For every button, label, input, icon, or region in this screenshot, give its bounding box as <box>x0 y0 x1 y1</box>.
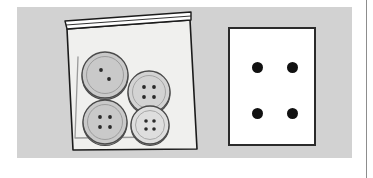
button-hole <box>99 68 103 72</box>
button-hole <box>107 77 111 81</box>
button-hole <box>144 127 148 131</box>
button-hole <box>152 127 156 131</box>
button-bottom-right <box>131 106 169 146</box>
button-hole <box>98 115 102 119</box>
button-hole <box>142 95 146 99</box>
illustration-scene <box>0 0 373 178</box>
card-dot-top-right <box>287 62 298 73</box>
button-hole <box>98 125 102 129</box>
page-edge-rule <box>366 0 367 178</box>
card-dot-top-left <box>252 62 263 73</box>
white-index-card <box>228 27 316 146</box>
button-bottom-left <box>83 100 127 146</box>
button-hole <box>152 119 156 123</box>
card-dot-bottom-left <box>252 108 263 119</box>
button-hole <box>108 115 112 119</box>
illustration-panel <box>17 7 352 158</box>
card-dot-bottom-right <box>287 108 298 119</box>
button-hole <box>108 125 112 129</box>
button-hole <box>152 95 156 99</box>
button-hole <box>152 85 156 89</box>
button-hole <box>144 119 148 123</box>
button-hole <box>142 85 146 89</box>
button-top-left <box>82 52 128 100</box>
